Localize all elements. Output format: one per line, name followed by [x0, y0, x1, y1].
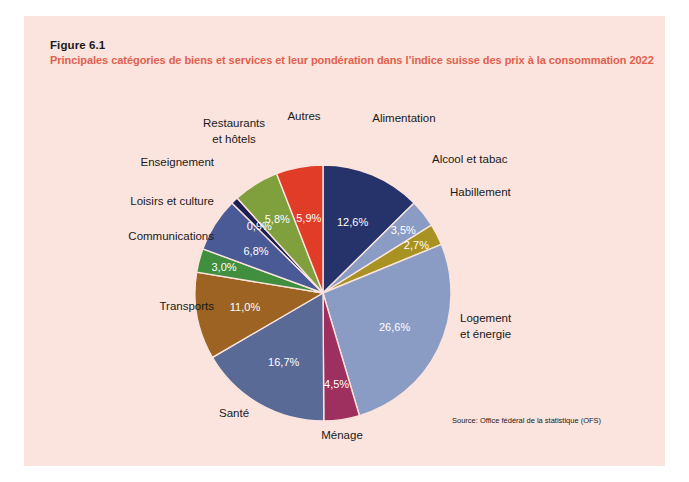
pie-value-label-logement-et-nergie: 26,6% [379, 321, 410, 333]
callout-communications: Communications [34, 229, 214, 244]
pie-slice-group [195, 165, 451, 421]
callout-restaurants-line2: et hôtels [169, 132, 299, 147]
pie-value-label-sant: 16,7% [268, 356, 299, 368]
pie-value-label-habillement: 2,7% [404, 239, 429, 251]
callout-logement-line2: et énergie [460, 327, 511, 342]
pie-value-label-alimentation: 12,6% [337, 216, 368, 228]
callout-enseignement: Enseignement [54, 155, 214, 170]
pie-value-label-communications: 3,0% [211, 261, 236, 273]
callout-habillement: Habillement [450, 185, 511, 200]
figure-card: Figure 6.1 Principales catégories de bie… [24, 16, 665, 466]
callout-menage: Ménage [282, 428, 402, 443]
callout-sante: Santé [174, 406, 294, 421]
pie-value-label-restaurants-et-h-tels: 5,8% [265, 213, 290, 225]
callout-transports: Transports [64, 299, 214, 314]
pie-value-label-transports: 11,0% [230, 301, 261, 313]
pie-value-label-loisirs-et-culture: 6,8% [243, 245, 268, 257]
callout-alimentation: Alimentation [334, 111, 474, 126]
pie-value-label-m-nage: 4,5% [324, 378, 349, 390]
callout-alcool-et-tabac: Alcool et tabac [432, 152, 507, 167]
pie-value-label-alcool-et-tabac: 3,5% [391, 224, 416, 236]
pie-value-label-autres: 5,9% [296, 212, 321, 224]
callout-logement-line1: Logement [460, 311, 511, 326]
callout-loisirs-et-culture: Loisirs et culture [34, 194, 214, 209]
pie-chart: 12,6%3,5%2,7%26,6%4,5%16,7%11,0%3,0%6,8%… [24, 16, 665, 466]
source-note: Source: Office fédéral de la statistique… [452, 416, 601, 425]
